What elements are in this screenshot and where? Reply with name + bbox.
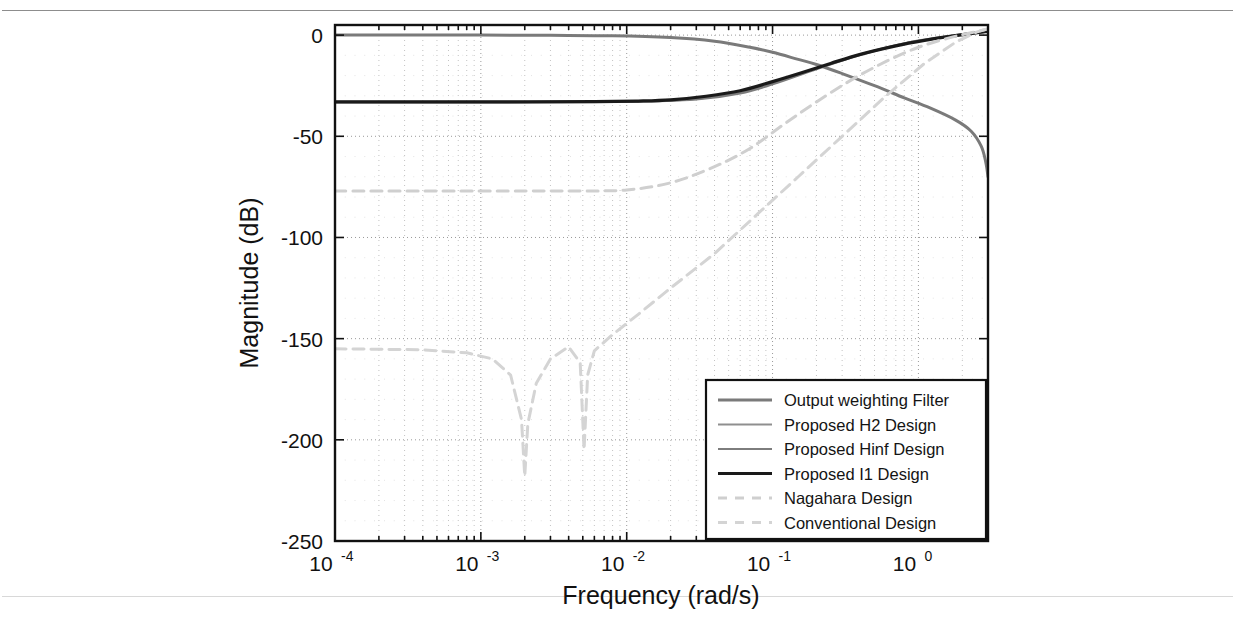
svg-text:-3: -3	[487, 548, 500, 564]
y-tick-label: -100	[281, 226, 323, 249]
svg-text:10: 10	[601, 552, 624, 575]
svg-text:10: 10	[747, 552, 770, 575]
y-tick-label: -50	[293, 125, 323, 148]
svg-text:0: 0	[924, 548, 932, 564]
svg-text:-1: -1	[779, 548, 792, 564]
svg-text:-2: -2	[633, 548, 646, 564]
legend-item-label[interactable]: Nagahara Design	[784, 489, 912, 507]
x-tick-label: 10-4	[309, 548, 353, 575]
x-tick-label: 10-1	[747, 548, 791, 575]
y-tick-label: -200	[281, 429, 323, 452]
x-tick-label: 10-3	[455, 548, 499, 575]
x-tick-label: 10-2	[601, 548, 645, 575]
legend-item-label[interactable]: Proposed Hinf Design	[784, 440, 945, 458]
x-axis-label: Frequency (rad/s)	[562, 581, 759, 609]
legend[interactable]: Output weighting FilterProposed H2 Desig…	[706, 380, 986, 539]
x-tick-label: 100	[893, 548, 933, 575]
svg-text:-4: -4	[341, 548, 354, 564]
legend-item-label[interactable]: Proposed H2 Design	[784, 416, 936, 434]
bode-magnitude-plot: 0-50-100-150-200-25010-410-310-210-1100 …	[0, 0, 1235, 621]
legend-item-label[interactable]: Output weighting Filter	[784, 391, 950, 409]
legend-item-label[interactable]: Proposed I1 Design	[784, 465, 929, 483]
svg-text:10: 10	[455, 552, 478, 575]
svg-text:10: 10	[893, 552, 916, 575]
y-tick-label: 0	[311, 24, 323, 47]
legend-item-label[interactable]: Conventional Design	[784, 514, 936, 532]
figure-canvas: 0-50-100-150-200-25010-410-310-210-1100 …	[0, 0, 1235, 621]
y-tick-label: -150	[281, 328, 323, 351]
svg-text:10: 10	[309, 552, 332, 575]
y-axis-label: Magnitude (dB)	[235, 198, 263, 369]
y-tick-label: -250	[281, 530, 323, 553]
